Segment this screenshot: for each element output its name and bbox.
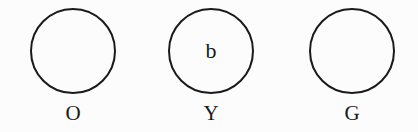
label-G: G [332, 101, 372, 126]
circle-Y-content: b [206, 38, 217, 64]
label-Y: Y [191, 101, 231, 126]
circle-O [30, 8, 116, 94]
label-O: O [53, 101, 93, 126]
circle-G [309, 8, 395, 94]
circle-Y: b [168, 8, 254, 94]
